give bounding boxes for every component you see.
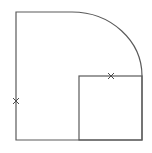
geometry-diagram	[0, 0, 152, 153]
